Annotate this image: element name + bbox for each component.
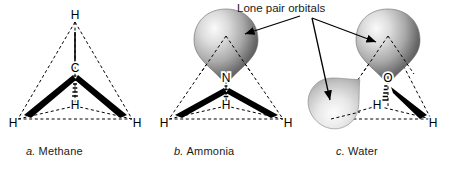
arrow-to-water-orbital-lower	[312, 18, 330, 100]
figure-canvas: H C H H H a.Methane	[0, 0, 451, 171]
arrow-to-water-orbital-top	[312, 18, 376, 42]
arrow-to-ammonia-orbital	[245, 16, 300, 34]
annotation-arrows	[0, 0, 451, 171]
lone-pair-orbitals-label: Lone pair orbitals	[237, 2, 325, 14]
